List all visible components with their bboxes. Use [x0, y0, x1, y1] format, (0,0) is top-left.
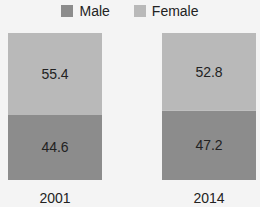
data-label-male-2014: 47.2 — [195, 137, 222, 153]
x-tick-label-2014: 2014 — [193, 190, 224, 206]
stacked-bar-chart: 44.655.4200147.252.82014 — [0, 0, 260, 207]
data-label-male-2001: 44.6 — [41, 139, 68, 155]
data-label-female-2014: 52.8 — [195, 64, 222, 80]
x-tick-label-2001: 2001 — [39, 190, 70, 206]
data-label-female-2001: 55.4 — [41, 66, 68, 82]
